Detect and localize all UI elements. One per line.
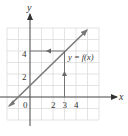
x-tick-label-3: 3	[63, 100, 68, 110]
x-axis-label: x	[118, 91, 124, 102]
origin-label: 0	[23, 100, 28, 110]
x-tick-label-2: 2	[51, 100, 56, 110]
x-tick-label-4: 4	[74, 100, 79, 110]
y-tick-label-4: 4	[22, 49, 27, 59]
function-label: y = f(x)	[67, 52, 94, 62]
function-line	[9, 30, 87, 106]
y-tick-label-2: 2	[22, 72, 27, 82]
y-axis-label: y	[26, 2, 32, 13]
function-graph: y x 0 2 3 4 4 2 y = f(x)	[0, 0, 128, 136]
